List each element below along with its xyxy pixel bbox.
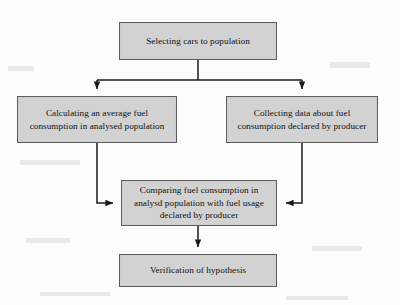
node-label: Calculating an average fuel consumption … <box>22 107 172 132</box>
node-verification-hypothesis: Verification of hypothesis <box>119 254 277 287</box>
edge-collect-to-compare <box>286 143 302 203</box>
edge-average-to-compare <box>97 143 113 203</box>
node-collecting-data: Collecting data about fuel consumption d… <box>226 96 378 143</box>
node-calculating-average: Calculating an average fuel consumption … <box>17 96 177 143</box>
node-label: Selecting cars to population <box>124 35 272 48</box>
node-label: Comparing fuel consumption in analysd po… <box>126 184 272 222</box>
flowchart-canvas: Selecting cars to population Calculating… <box>0 0 400 305</box>
node-label: Verification of hypothesis <box>124 264 272 277</box>
node-label: Collecting data about fuel consumption d… <box>231 107 373 132</box>
node-selecting-cars: Selecting cars to population <box>119 22 277 60</box>
node-comparing-consumption: Comparing fuel consumption in analysd po… <box>121 180 277 226</box>
